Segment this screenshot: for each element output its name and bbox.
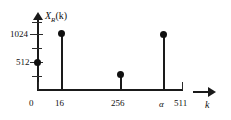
x-tick-label-511: 511 [174,99,187,108]
stem-kalpha [163,34,165,90]
x-tick-label-16: 16 [55,99,64,108]
x-tick-label-0: 0 [29,99,34,108]
y-axis-line [37,19,39,90]
y-tick-label-512: 512 [16,58,30,67]
data-point-kalpha [160,31,167,38]
x-axis-tick-511 [182,82,183,90]
dft-magnitude-stem-plot: XR(k) 1024 512 0 16 256 α 511 k [0,0,231,120]
y-axis-title-argument: (k) [55,10,67,21]
y-axis-tick [32,76,42,77]
stem-k16 [61,33,63,90]
y-axis-arrowhead-icon [33,12,43,20]
y-axis-tick [32,22,42,23]
x-axis-line [37,89,183,91]
y-tick-label-1024: 1024 [10,30,28,39]
data-point-k0 [34,59,41,66]
x-axis-tick-0 [38,82,39,90]
data-point-k256 [117,71,124,78]
y-axis-tick-1024 [30,34,43,35]
x-tick-label-alpha: α [159,100,164,109]
x-axis-direction-arrowhead-icon [208,87,216,97]
data-point-k16 [58,30,65,37]
x-tick-label-256: 256 [111,99,125,108]
y-axis-title: XR(k) [45,11,67,24]
y-axis-tick [32,48,42,49]
x-axis-label-k: k [205,100,209,110]
